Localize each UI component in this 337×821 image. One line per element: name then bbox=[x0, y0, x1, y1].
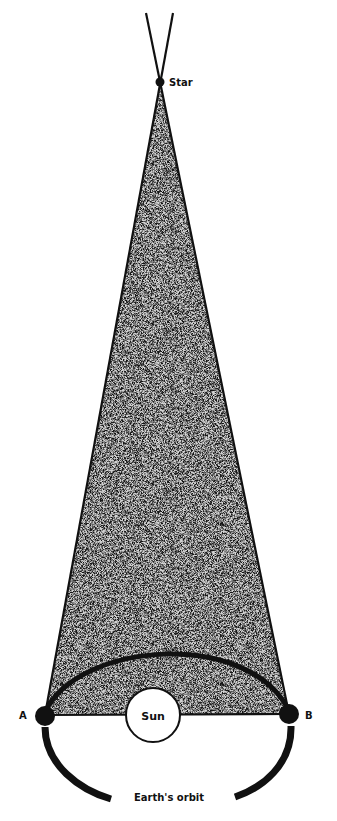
orbit-lower-arc-left bbox=[45, 727, 111, 799]
point-a-label: A bbox=[19, 710, 27, 721]
earth-position-b bbox=[279, 704, 299, 724]
orbit-lower-arc-right bbox=[235, 726, 291, 797]
sun-label: Sun bbox=[141, 710, 165, 723]
earth-orbit-label: Earth's orbit bbox=[134, 792, 204, 803]
star-label: Star bbox=[169, 77, 193, 88]
parallax-diagram: Star Sun A B Earth's orbit bbox=[0, 0, 337, 821]
earth-position-a bbox=[35, 706, 55, 726]
star-point bbox=[156, 78, 165, 87]
point-b-label: B bbox=[305, 710, 313, 721]
